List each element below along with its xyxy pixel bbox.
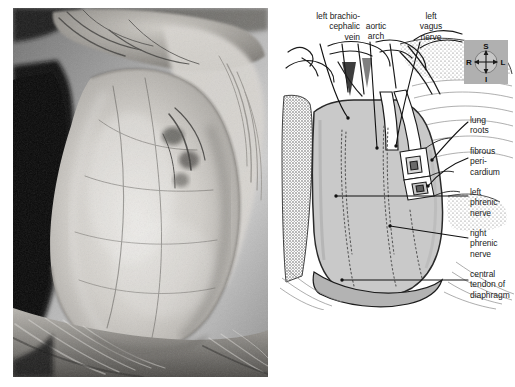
anatomical-figure: left brachio- cephalic vein aortic arch …	[0, 0, 515, 387]
dissection-photograph	[13, 8, 268, 377]
label-central-tendon-of-diaphragm: central tendon of diaphragm	[470, 269, 515, 300]
label-left-vagus-nerve: left vagus nerve	[405, 11, 457, 42]
orientation-compass: S I R L	[464, 40, 508, 84]
label-fibrous-pericardium: fibrous peri- cardium	[470, 146, 515, 177]
compass-superior-label: S	[483, 42, 489, 51]
label-left-brachiocephalic-vein: left brachio- cephalic vein	[286, 11, 360, 42]
label-aortic-arch: aortic arch	[352, 21, 400, 42]
label-right-phrenic-nerve: right phrenic nerve	[470, 228, 515, 259]
compass-inferior-label: I	[485, 75, 487, 84]
label-left-phrenic-nerve: left phrenic nerve	[470, 187, 515, 218]
label-lung-roots: lung roots	[470, 115, 515, 136]
compass-left-label: L	[501, 58, 506, 67]
compass-right-label: R	[466, 58, 472, 67]
